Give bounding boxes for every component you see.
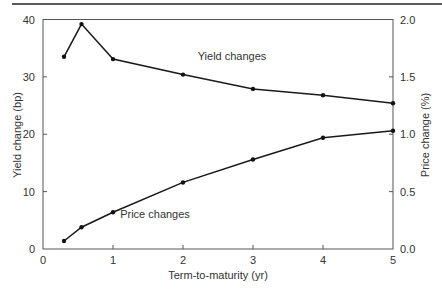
series-annotation: Price changes [120, 208, 190, 220]
y-tick-label: 40 [23, 14, 35, 26]
price-changes-point [79, 225, 83, 229]
price-changes-point [251, 157, 255, 161]
yield-changes-line [64, 24, 393, 103]
yield-changes-point [62, 55, 66, 59]
x-tick-label: 5 [390, 254, 396, 266]
yield-changes-point [79, 22, 83, 26]
price-changes-point [62, 239, 66, 243]
y-tick-label: 30 [23, 71, 35, 83]
series-annotation: Yield changes [198, 50, 267, 62]
price-changes-point [111, 210, 115, 214]
x-tick-label: 1 [110, 254, 116, 266]
yield-changes-point [181, 72, 185, 76]
yield-changes-point [111, 57, 115, 61]
price-changes-point [181, 180, 185, 184]
y2-tick-label: 1.5 [400, 71, 415, 83]
y2-tick-label: 0.5 [400, 186, 415, 198]
x-tick-label: 0 [40, 254, 46, 266]
y-tick-label: 10 [23, 186, 35, 198]
yield-changes-point [391, 101, 395, 105]
price-changes-point [321, 135, 325, 139]
y2-tick-label: 2.0 [400, 14, 415, 26]
x-axis-label: Term-to-maturity (yr) [168, 269, 268, 281]
price-changes-line [64, 131, 393, 241]
yield-changes-point [321, 93, 325, 97]
plot-area: 0123450102030400.00.51.01.52.0Yield chan… [23, 14, 416, 267]
x-tick-label: 4 [320, 254, 326, 266]
y-axis-label: Yield change (bp) [11, 92, 23, 178]
y-tick-label: 0 [29, 243, 35, 255]
chart: 0123450102030400.00.51.01.52.0Yield chan… [0, 0, 442, 291]
price-changes-point [391, 129, 395, 133]
y-tick-label: 20 [23, 128, 35, 140]
y2-tick-label: 1.0 [400, 128, 415, 140]
x-tick-label: 3 [250, 254, 256, 266]
y2-axis-label: Price change (%) [419, 93, 431, 177]
x-tick-label: 2 [180, 254, 186, 266]
y2-tick-label: 0.0 [400, 243, 415, 255]
yield-changes-point [251, 87, 255, 91]
